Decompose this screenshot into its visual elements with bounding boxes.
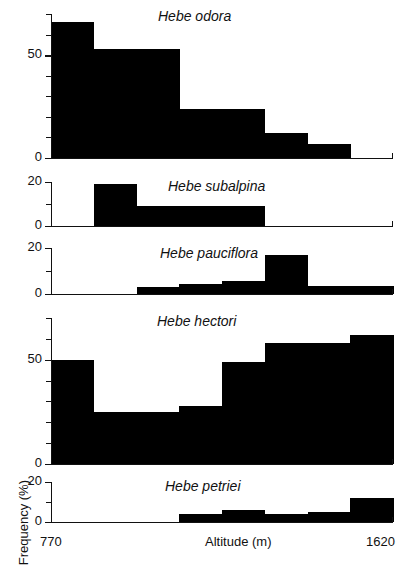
y-axis-line (51, 248, 52, 295)
y-axis-major-tick (45, 360, 51, 361)
histogram-bar (179, 514, 222, 522)
y-axis-minor-tick (46, 204, 51, 205)
histogram-bar (222, 109, 265, 158)
histogram-bar (179, 406, 222, 464)
x-axis-line (51, 464, 393, 465)
histogram-bar (350, 286, 393, 294)
y-axis-minor-tick (46, 76, 51, 77)
histogram-bar (222, 362, 265, 464)
y-axis-line (51, 14, 52, 159)
y-axis-minor-tick (46, 96, 51, 97)
histogram-bar (308, 144, 351, 158)
histogram-bar (137, 206, 180, 226)
y-axis-tick-label: 0 (35, 513, 42, 528)
y-axis-tick-label: 0 (35, 455, 42, 470)
y-axis-tick-label: 50 (28, 351, 42, 366)
histogram-bar (94, 412, 137, 464)
panel-title: Hebe odora (158, 8, 231, 24)
y-axis-tick-label: 20 (28, 173, 42, 188)
x-axis-end-tick (392, 459, 393, 465)
y-axis-line (51, 482, 52, 523)
y-axis-major-tick (45, 182, 51, 183)
y-axis-minor-tick (46, 318, 51, 319)
panel-hebe-hectori: 050Hebe hectori (0, 318, 418, 468)
histogram-bar (222, 281, 265, 294)
y-axis-tick-label: 0 (35, 285, 42, 300)
panel-title: Hebe petriei (165, 478, 241, 494)
y-axis-major-tick (45, 482, 51, 483)
y-axis-minor-tick (46, 502, 51, 503)
y-axis-tick-label: 20 (28, 239, 42, 254)
x-axis-line (51, 294, 393, 295)
y-axis-major-tick (45, 226, 51, 227)
histogram-bar (179, 206, 222, 226)
y-axis-major-tick (45, 522, 51, 523)
histogram-bar (51, 360, 94, 464)
histogram-bar (350, 335, 393, 464)
y-axis-tick-label: 50 (28, 46, 42, 61)
y-axis-minor-tick (46, 401, 51, 402)
x-axis-start-label: 770 (40, 534, 62, 549)
x-axis-end-tick (392, 289, 393, 295)
y-axis-minor-tick (46, 137, 51, 138)
x-axis-end-tick (392, 221, 393, 227)
y-axis-tick-label: 0 (35, 149, 42, 164)
histogram-bar (94, 49, 137, 158)
histogram-bar (51, 22, 94, 158)
histogram-bar (308, 343, 351, 464)
y-axis-major-tick (45, 55, 51, 56)
x-axis-line (51, 226, 393, 227)
panel-hebe-petriei: 020Hebe petriei (0, 482, 418, 526)
histogram-bar (94, 184, 137, 226)
x-axis-end-label: 1620 (366, 534, 395, 549)
histogram-bar (222, 206, 265, 226)
histogram-bar (179, 109, 222, 158)
y-axis-minor-tick (46, 443, 51, 444)
y-axis-minor-tick (46, 381, 51, 382)
y-axis-minor-tick (46, 422, 51, 423)
histogram-bar (137, 412, 180, 464)
x-axis-end-tick (392, 153, 393, 159)
histogram-bar (265, 133, 308, 158)
panel-title: Hebe subalpina (168, 178, 265, 194)
histogram-bar (137, 49, 180, 158)
histogram-bar (179, 284, 222, 294)
y-axis-minor-tick (46, 14, 51, 15)
y-axis-minor-tick (46, 271, 51, 272)
panel-title: Hebe pauciflora (160, 245, 258, 261)
y-axis-major-tick (45, 294, 51, 295)
histogram-bar (265, 255, 308, 294)
x-axis-line (51, 158, 393, 159)
x-axis-end-tick (392, 517, 393, 523)
histogram-bar (265, 514, 308, 522)
y-axis-tick-label: 20 (28, 473, 42, 488)
histogram-bar (308, 512, 351, 522)
y-axis-line (51, 318, 52, 465)
y-axis-tick-label: 0 (35, 217, 42, 232)
panel-title: Hebe hectori (157, 313, 236, 329)
panel-hebe-pauciflora: 020Hebe pauciflora (0, 248, 418, 298)
panel-hebe-odora: 050Hebe odora (0, 14, 418, 162)
x-axis-label: Altitude (m) (205, 534, 271, 549)
histogram-bar (350, 498, 393, 522)
y-axis-major-tick (45, 464, 51, 465)
x-axis-line (51, 522, 393, 523)
histogram-bar (222, 510, 265, 522)
y-axis-major-tick (45, 158, 51, 159)
y-axis-minor-tick (46, 339, 51, 340)
y-axis-major-tick (45, 248, 51, 249)
histogram-bar (137, 287, 180, 294)
y-axis-minor-tick (46, 117, 51, 118)
y-axis-line (51, 182, 52, 227)
histogram-bar (265, 343, 308, 464)
panel-hebe-subalpina: 020Hebe subalpina (0, 182, 418, 230)
histogram-bar (308, 286, 351, 294)
y-axis-minor-tick (46, 35, 51, 36)
